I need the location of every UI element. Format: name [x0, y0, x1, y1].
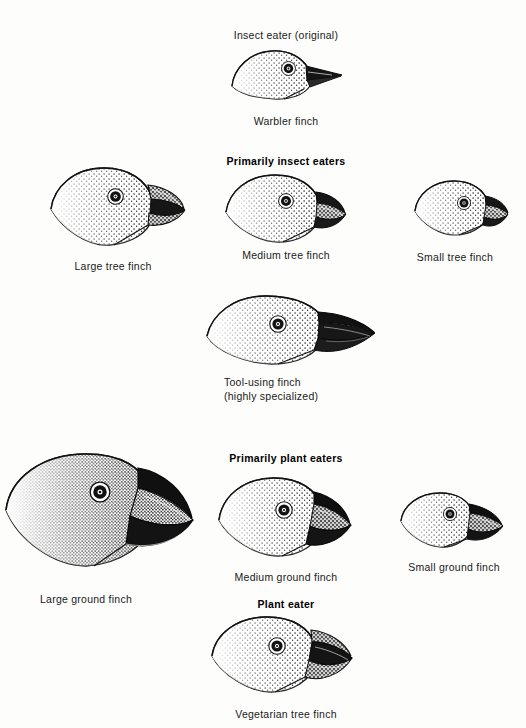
finch-large-ground-finch [2, 448, 198, 576]
finch-small-tree-finch [412, 177, 512, 241]
darwins-finches-figure: Insect eater (original) Insect eater (or… [0, 0, 526, 728]
vegetarian-tree-finch-beak [305, 630, 352, 679]
large-ground-finch-head [6, 454, 152, 566]
warbler-finch-beak [306, 66, 342, 87]
caption-medium-ground-finch: Medium ground finch [235, 570, 338, 584]
medium-ground-finch-eye [276, 502, 292, 518]
caption-vegetarian-tree-finch: Vegetarian tree finch [235, 707, 337, 721]
vegetarian-tree-finch-eye [269, 638, 285, 654]
finch-medium-tree-finch [223, 170, 351, 248]
medium-tree-finch-beak [314, 192, 346, 228]
small-ground-finch-eye [443, 507, 456, 520]
warbler-finch-eye [282, 62, 296, 76]
group-heading-primarily-plant-eaters: Primarily plant eaters [229, 452, 342, 464]
large-tree-finch-head [51, 168, 152, 245]
large-ground-finch-eye [90, 482, 110, 502]
small-tree-finch-eye [457, 196, 470, 209]
caption-tool-using-finch-sub: (highly specialized) [224, 389, 318, 403]
caption-tool-using-finch: Tool-using finch [224, 375, 301, 389]
large-tree-finch-eye [108, 189, 124, 205]
finch-large-tree-finch [48, 163, 194, 253]
caption-small-tree-finch: Small tree finch [417, 250, 493, 264]
medium-tree-finch-eye [279, 194, 294, 209]
vegetarian-tree-finch-head [212, 617, 315, 692]
caption-medium-tree-finch: Medium tree finch [242, 248, 330, 262]
finch-medium-ground-finch [216, 472, 356, 564]
finch-warbler-finch [228, 42, 346, 108]
finch-tool-using-finch [204, 292, 380, 370]
caption-large-ground-finch: Large ground finch [40, 592, 132, 606]
group-label-insect-eater-original: Insect eater (original) [234, 28, 338, 42]
small-tree-finch-beak [483, 196, 508, 226]
caption-large-tree-finch: Large tree finch [75, 259, 152, 273]
large-tree-finch-beak [148, 185, 185, 225]
finch-small-ground-finch [398, 489, 508, 555]
tool-using-finch-head [207, 296, 324, 364]
caption-small-ground-finch: Small ground finch [408, 560, 499, 574]
small-ground-finch-head [401, 493, 473, 547]
group-heading-primarily-insect-eaters: Primarily insect eaters [227, 155, 346, 167]
group-heading-plant-eater: Plant eater [258, 598, 315, 610]
finch-vegetarian-tree-finch [209, 612, 357, 700]
tool-using-finch-eye [270, 316, 286, 332]
small-ground-finch-beak [467, 504, 503, 540]
small-tree-finch-head [415, 181, 488, 235]
caption-warbler-finch: Warbler finch [254, 114, 319, 128]
tool-using-finch-beak [314, 312, 375, 351]
